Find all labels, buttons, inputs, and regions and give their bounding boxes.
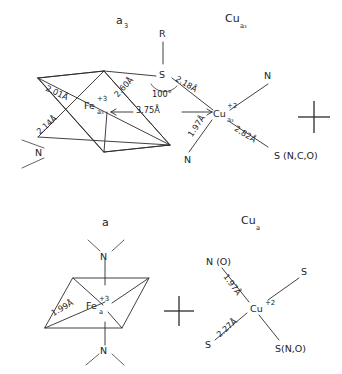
bottom-left-n-top-label: N [100, 251, 107, 262]
top-left-n-label: N [35, 147, 42, 158]
fe-atom-symbol: Fe [84, 100, 95, 111]
bridge-s-label: S [159, 69, 165, 80]
top-right-cu-center-label: Cu a₃ +2 [213, 102, 237, 124]
bond-2-14-text: 2.14Å [34, 112, 59, 136]
metal-metal-distance-text: 3.75Å [136, 104, 160, 115]
bond-2-60-text: 2.60Å [111, 74, 135, 99]
bond-1-99-text: 1.99Å [49, 296, 75, 318]
top-plus-separator [298, 101, 330, 133]
bridge-angle-label: 100° [152, 89, 172, 99]
bottom-left-n-bottom-label: N [100, 345, 107, 356]
bottom-right-title: Cu a [241, 214, 260, 232]
bottom-right-s-mixed-label: S(N,O) [275, 343, 306, 354]
fe-charge: +3 [97, 95, 107, 103]
top-right-title: Cu a₃ [225, 12, 247, 30]
bond-2-18-text: 2.18Å [174, 72, 200, 94]
bond-label-2-60: 2.60Å [111, 74, 135, 99]
bottom-right-title-text: Cu [241, 214, 256, 227]
bond-label-1-99: 1.99Å [49, 296, 75, 318]
r-group-label: R [159, 28, 166, 39]
top-left-title: a 3 [116, 14, 128, 30]
chemical-structure-figure: a 3 Cu a₃ Fe a₃ +3 2.01Å 2.14Å 2.60Å [0, 0, 342, 374]
top-right-n-lower-label: N [184, 154, 191, 165]
bottom-right-title-sub: a [256, 224, 260, 232]
bond-label-1-97-bottom: 1.97Å [221, 271, 244, 297]
bond-1-97-top-text: 1.97Å [185, 112, 208, 138]
bottom-fe-atom-symbol: Fe [86, 300, 97, 311]
top-left-fe-center-label: Fe a₃ +3 [84, 95, 107, 116]
bottom-right-s-lower-label: S [205, 339, 211, 350]
bottom-right-cu-center-label: Cu +2 [250, 299, 275, 314]
bond-label-2-27: 2.27Å [214, 315, 239, 339]
bond-2-27-text: 2.27Å [214, 315, 239, 339]
bond-2-82-text: 2.82Å [233, 122, 259, 144]
bond-label-2-14: 2.14Å [34, 112, 59, 136]
bond-label-2-18: 2.18Å [174, 72, 200, 94]
bond-label-2-82: 2.82Å [233, 122, 259, 144]
bottom-left-n-bottom-group: N [86, 322, 124, 365]
metal-metal-distance-arrow: 3.75Å [111, 104, 212, 116]
bond-label-1-97-top: 1.97Å [185, 112, 208, 138]
bottom-fe-subscript: a [99, 308, 103, 316]
cu-atom-symbol: Cu [213, 108, 226, 119]
bottom-fe-charge: +3 [99, 295, 109, 303]
bottom-cu-atom-symbol: Cu [250, 303, 263, 314]
bottom-right-s-upper-label: S [301, 266, 307, 277]
bond-1-97-bottom-text: 1.97Å [221, 271, 244, 297]
top-right-s-mixed-label: S (N,C,O) [274, 150, 318, 161]
fe-subscript: a₃ [97, 108, 104, 116]
top-left-title-sub: 3 [124, 22, 128, 30]
bottom-cu-charge: +2 [265, 299, 275, 307]
top-left-title-text: a [116, 14, 123, 27]
top-right-n-upper-label: N [264, 70, 271, 81]
bottom-plus-separator [164, 296, 194, 326]
top-right-title-text: Cu [225, 12, 240, 25]
bottom-right-no-label: N (O) [206, 256, 231, 267]
top-left-n-dimethyl: N [22, 140, 44, 168]
top-right-title-sub: a₃ [240, 22, 247, 30]
bottom-left-title: a [102, 216, 109, 229]
